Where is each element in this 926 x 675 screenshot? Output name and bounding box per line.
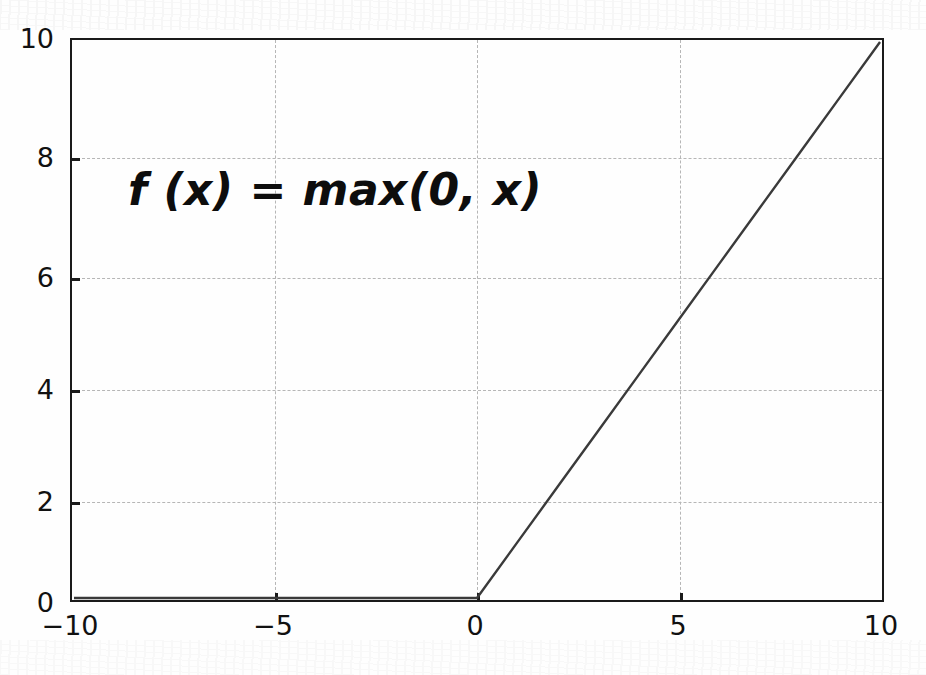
ytick-label-8: 8 — [0, 144, 54, 171]
formula-annotation: f (x) = max(0, x) — [128, 168, 542, 212]
scan-artifact-top — [0, 0, 926, 30]
xtick-label-0: 0 — [466, 612, 483, 639]
plot-area — [70, 38, 884, 602]
xtick-label-5: 5 — [669, 612, 686, 639]
ytick-label-10: 10 — [0, 25, 54, 52]
xtick-label-minus5: −5 — [253, 612, 293, 639]
ytick-label-4: 4 — [0, 376, 54, 403]
xtick-label-minus10: −10 — [42, 612, 99, 639]
relu-curve — [72, 40, 882, 600]
xtick-label-10: 10 — [864, 612, 898, 639]
ytick-label-2: 2 — [0, 488, 54, 515]
figure-page: 10 8 6 4 2 0 −10 −5 0 5 10 f (x) = max(0… — [0, 0, 926, 675]
scan-artifact-bottom — [0, 640, 926, 675]
ytick-label-6: 6 — [0, 264, 54, 291]
